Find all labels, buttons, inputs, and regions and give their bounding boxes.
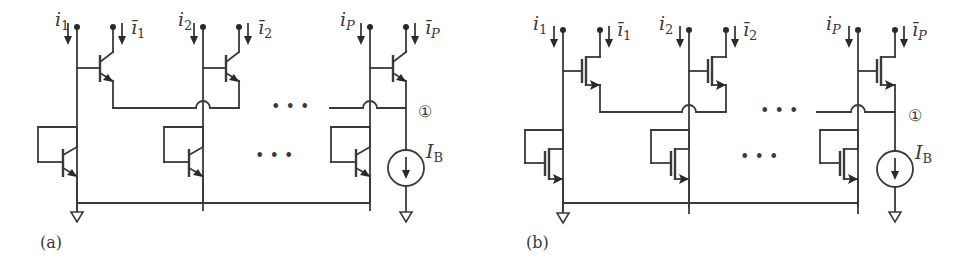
label-iP: iP bbox=[826, 12, 841, 37]
circuit-figure: • • • • • • i1 ī1 i2 ī2 iP īP ① IB (a) •… bbox=[0, 0, 961, 270]
panel-b: • • • • • • i1 ī1 i2 ī2 iP īP ① IB (b) bbox=[525, 12, 932, 252]
emitter-bus-a bbox=[113, 101, 239, 108]
label-ibarP: īP bbox=[425, 16, 440, 41]
ground-icon bbox=[557, 213, 569, 223]
caption-b: (b) bbox=[526, 233, 549, 252]
ground-icon bbox=[71, 212, 83, 222]
ellipsis-bottom-a: • • • bbox=[255, 146, 293, 165]
label-i2: i2 bbox=[178, 8, 192, 33]
label-ibarP: īP bbox=[912, 18, 927, 43]
mos-cell-1 bbox=[525, 27, 613, 213]
label-ibar1: ī1 bbox=[131, 16, 145, 41]
node-1-label: ① bbox=[418, 102, 432, 121]
ellipsis-top-a: • • • bbox=[271, 97, 309, 116]
label-ibar2: ī2 bbox=[743, 18, 757, 43]
caption-a: (a) bbox=[40, 233, 62, 252]
bjt-cell-2 bbox=[164, 24, 252, 210]
ellipsis-top-b: • • • bbox=[760, 101, 798, 120]
ground-icon bbox=[400, 212, 412, 222]
label-i1: i1 bbox=[533, 12, 547, 37]
label-i1: i1 bbox=[55, 8, 69, 33]
ground-icon bbox=[889, 212, 901, 222]
label-ibar2: ī2 bbox=[258, 16, 272, 41]
ellipsis-bottom-b: • • • bbox=[740, 147, 778, 166]
bias-current-label: IB bbox=[425, 140, 443, 165]
mos-cell-2 bbox=[651, 27, 739, 213]
bjt-cell-1 bbox=[38, 24, 126, 210]
node-1-label: ① bbox=[908, 106, 922, 125]
label-i2: i2 bbox=[659, 12, 673, 37]
label-ibar1: ī1 bbox=[617, 18, 631, 43]
panel-a: • • • • • • i1 ī1 i2 ī2 iP īP ① IB (a) bbox=[38, 8, 443, 252]
source-bus-b bbox=[600, 105, 726, 112]
bias-current-label: IB bbox=[914, 141, 932, 166]
label-iP: iP bbox=[340, 8, 355, 33]
